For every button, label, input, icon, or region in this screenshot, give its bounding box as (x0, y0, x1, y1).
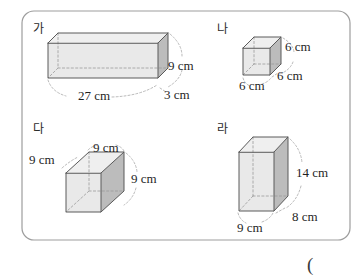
figure-label-na: 나 (217, 22, 228, 36)
figure-da: 다 9 cm 9 cm 9 cm (29, 122, 157, 212)
da-dim-height: 9 cm (131, 171, 157, 186)
na-dim-depth: 6 cm (277, 68, 303, 83)
ra-dim-depth: 8 cm (292, 209, 318, 224)
ra-leader-depth (276, 208, 285, 213)
ga-front-face (48, 43, 158, 78)
figure-label-ra: 라 (217, 122, 228, 136)
figure-label-ga: 가 (33, 22, 44, 36)
ra-dim-width: 9 cm (237, 220, 263, 235)
figure-panel-stage: 가 27 cm 9 cm 3 cm 나 6 cm 6 cm 6 cm (0, 0, 364, 279)
da-dim-top-width: 9 cm (29, 152, 55, 167)
ga-dim-depth: 3 cm (164, 87, 190, 102)
figure-ra: 라 14 cm 8 cm 9 cm (217, 122, 328, 235)
ga-top-face (48, 33, 168, 43)
figure-ga: 가 27 cm 9 cm 3 cm (33, 22, 194, 103)
ga-dim-height: 9 cm (168, 58, 194, 73)
ra-front-face (239, 152, 274, 211)
ra-dim-height: 14 cm (296, 165, 328, 180)
solids-illustration: 가 27 cm 9 cm 3 cm 나 6 cm 6 cm 6 cm (0, 0, 364, 279)
ga-dim-length: 27 cm (78, 88, 110, 103)
da-dim-top-depth: 9 cm (93, 140, 119, 155)
figure-na: 나 6 cm 6 cm 6 cm (217, 22, 311, 93)
na-dim-height: 6 cm (285, 39, 311, 54)
na-dim-width: 6 cm (239, 78, 265, 93)
figure-label-da: 다 (33, 122, 44, 136)
da-front-face (66, 173, 101, 212)
answer-open-paren: ( (307, 254, 313, 276)
